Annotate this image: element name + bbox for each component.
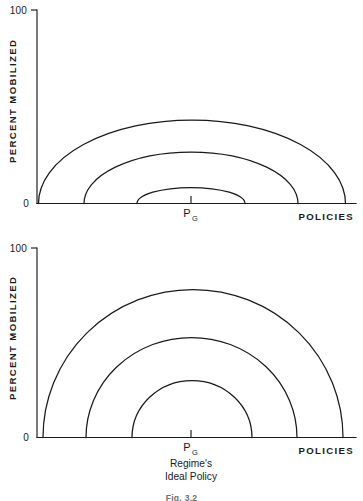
center-marker-sub-bottom: G [192,448,198,457]
y-tick-label-0-bottom: 0 [23,432,29,443]
curve-outer-top [39,120,346,203]
center-marker-subcaption-line1: Regime's [170,458,212,469]
chart-panel-bottom: 100 0 PERCENT MOBILIZED P G Regime's Ide… [0,232,363,501]
y-axis-title-bottom: PERCENT MOBILIZED [7,276,18,400]
chart-panel-top: 100 0 PERCENT MOBILIZED P G POLICIES [0,0,363,232]
center-marker-label-top: P [183,207,191,219]
center-marker-sub-top: G [192,214,198,223]
curve-inner-bottom [132,381,252,438]
y-tick-label-100-bottom: 100 [10,243,28,254]
y-tick-label-100-top: 100 [10,5,28,16]
x-axis-title-top: POLICIES [298,211,354,222]
center-marker-label-bottom: P [183,441,191,453]
figure-root: 100 0 PERCENT MOBILIZED P G POLICIES 100… [0,0,363,501]
curve-middle-bottom [86,338,297,438]
y-axis-title-top: PERCENT MOBILIZED [7,39,18,163]
y-tick-label-0-top: 0 [23,198,29,209]
curve-middle-top [84,152,298,203]
center-marker-subcaption-line2: Ideal Policy [165,471,218,482]
figure-caption: Fig. 3.2 [0,492,363,501]
x-axis-title-bottom: POLICIES [298,445,354,456]
